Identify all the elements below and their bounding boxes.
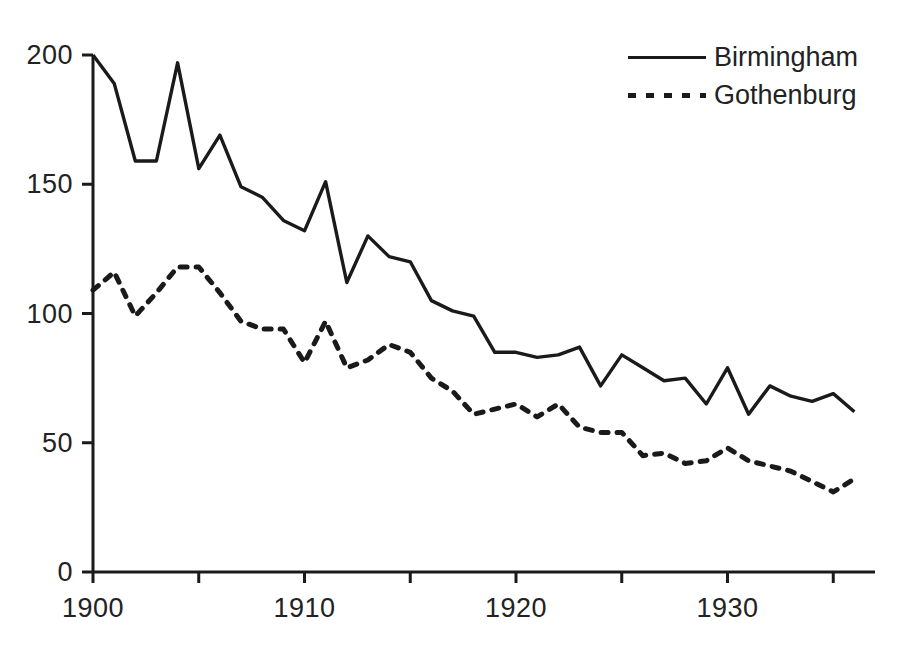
legend-line-sample-dotted-icon [628, 93, 706, 98]
line-chart: 200150100500 1900191019201930 Birmingham… [0, 0, 912, 650]
legend-line-sample-solid-icon [628, 56, 706, 59]
chart-legend: Birmingham Gothenburg [628, 38, 858, 114]
y-tick-label: 0 [0, 557, 73, 588]
x-tick-label: 1920 [485, 593, 547, 624]
legend-label-gothenburg: Gothenburg [714, 80, 857, 111]
y-tick-label: 200 [0, 40, 73, 71]
legend-label-birmingham: Birmingham [714, 42, 858, 73]
series-line-gothenburg [93, 267, 854, 492]
y-tick-label: 100 [0, 298, 73, 329]
x-tick-label: 1910 [273, 593, 335, 624]
data-series-group [93, 55, 854, 492]
legend-item-gothenburg[interactable]: Gothenburg [628, 76, 858, 114]
x-tick-label: 1930 [696, 593, 758, 624]
axis-lines [82, 55, 875, 583]
y-tick-label: 50 [0, 427, 73, 458]
legend-item-birmingham[interactable]: Birmingham [628, 38, 858, 76]
y-tick-label: 150 [0, 169, 73, 200]
x-tick-label: 1900 [62, 593, 124, 624]
